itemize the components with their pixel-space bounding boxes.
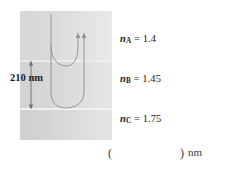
layer-c-value: = 1.75 (131, 113, 161, 124)
layer-label-b: nB = 1.45 (120, 73, 161, 85)
thin-film-figure: nA = 1.4 nB = 1.45 nC = 1.75 210 nm ( ) … (0, 0, 226, 172)
layer-b-value: = 1.45 (131, 73, 161, 84)
answer-paren-open: ( (108, 146, 112, 161)
layer-label-c: nC = 1.75 (120, 113, 161, 125)
thickness-label: 210 nm (10, 72, 43, 83)
layer-a-value: = 1.4 (131, 33, 156, 44)
answer-unit-label: nm (188, 146, 202, 158)
layer-slab-a (20, 11, 112, 61)
layer-slab-b (20, 62, 112, 109)
layer-label-a: nA = 1.4 (120, 33, 156, 45)
answer-blank: ( ) nm (108, 146, 220, 166)
answer-paren-close: ) (180, 146, 184, 161)
layer-slab-c (20, 110, 112, 140)
